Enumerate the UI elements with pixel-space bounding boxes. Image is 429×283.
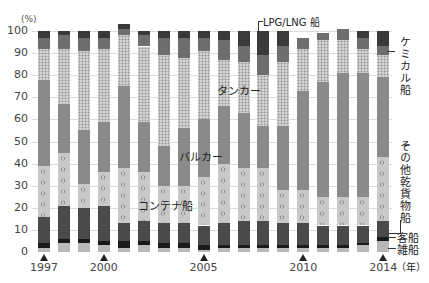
segment <box>138 122 150 173</box>
segment <box>58 31 70 35</box>
segment <box>38 49 50 80</box>
tanker-label: タンカー <box>217 82 261 98</box>
segment <box>277 62 289 126</box>
segment <box>317 82 329 197</box>
segment <box>138 245 150 252</box>
bar-1997 <box>38 31 50 252</box>
y-tick-label: 0 <box>4 245 28 258</box>
bar-2005 <box>198 31 210 252</box>
segment <box>377 55 389 77</box>
segment <box>58 206 70 239</box>
y-tick-label: 20 <box>4 201 28 214</box>
segment <box>377 31 389 46</box>
bar-2009 <box>277 31 289 252</box>
segment <box>118 24 130 28</box>
y-tick-label: 80 <box>4 68 28 81</box>
segment <box>158 248 170 252</box>
segment <box>98 206 110 241</box>
lpg-leader <box>258 21 259 33</box>
segment <box>198 250 210 252</box>
segment <box>257 126 269 168</box>
x-tick-label: 2005 <box>184 261 224 274</box>
segment <box>138 31 150 35</box>
segment <box>98 245 110 252</box>
segment <box>377 241 389 252</box>
segment <box>297 91 309 190</box>
segment <box>98 241 110 245</box>
segment <box>277 190 289 223</box>
y-tick-label: 60 <box>4 112 28 125</box>
y-tick-label: 100 <box>4 24 28 37</box>
segment <box>178 223 190 243</box>
segment <box>238 221 250 245</box>
segment <box>357 38 369 49</box>
segment <box>118 29 130 36</box>
segment <box>377 221 389 236</box>
segment <box>297 49 309 91</box>
segment <box>158 38 170 56</box>
x-tick-label: 2000 <box>84 261 124 274</box>
segment <box>98 49 110 122</box>
segment <box>78 31 90 38</box>
bar-2000 <box>98 31 110 252</box>
x-tick-marker-icon <box>299 254 307 261</box>
x-unit-label: （年） <box>396 259 426 274</box>
y-tick-label: 10 <box>4 223 28 236</box>
segment <box>118 86 130 168</box>
segment <box>337 40 349 73</box>
segment <box>138 47 150 122</box>
segment <box>118 248 130 252</box>
bar-2011 <box>317 31 329 252</box>
bar-2001 <box>118 31 130 252</box>
segment <box>58 243 70 252</box>
segment <box>78 243 90 252</box>
segment <box>158 31 170 38</box>
segment <box>38 248 50 252</box>
bar-2004 <box>178 31 190 252</box>
segment <box>78 38 90 51</box>
segment <box>178 243 190 247</box>
segment <box>297 38 309 49</box>
segment <box>198 177 210 226</box>
bar-2007 <box>238 31 250 252</box>
segment <box>178 58 190 129</box>
segment <box>317 248 329 252</box>
chemical-leader <box>387 51 395 52</box>
segment <box>218 248 230 252</box>
segment <box>118 223 130 241</box>
segment <box>58 49 70 104</box>
segment <box>377 77 389 157</box>
segment <box>98 38 110 49</box>
segment <box>218 40 230 60</box>
x-tick-marker-icon <box>40 254 48 261</box>
segment <box>297 190 309 223</box>
segment <box>257 31 269 55</box>
segment <box>337 248 349 252</box>
segment <box>337 245 349 247</box>
segment <box>238 168 250 221</box>
segment <box>38 31 50 38</box>
segment <box>78 130 90 183</box>
segment <box>198 51 210 120</box>
segment <box>238 245 250 247</box>
segment <box>277 46 289 61</box>
bar-2010 <box>297 31 309 252</box>
segment <box>357 49 369 73</box>
segment <box>297 248 309 252</box>
segment <box>337 197 349 226</box>
chemical-label: ケミカル船 <box>396 36 412 96</box>
segment <box>38 217 50 244</box>
segment <box>238 113 250 168</box>
segment <box>118 168 130 223</box>
bar-2013 <box>357 31 369 252</box>
segment <box>118 35 130 86</box>
x-tick-label: 2010 <box>283 261 323 274</box>
segment <box>337 226 349 246</box>
segment <box>337 29 349 40</box>
segment <box>138 241 150 245</box>
x-tick-marker-icon <box>100 254 108 261</box>
segment <box>98 31 110 38</box>
bar-2012 <box>337 31 349 252</box>
segment <box>98 172 110 205</box>
y-tick-label: 90 <box>4 46 28 59</box>
